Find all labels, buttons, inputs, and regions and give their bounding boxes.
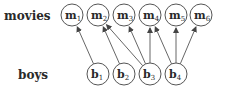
movies-node-m5: m5 xyxy=(165,4,187,26)
edges xyxy=(77,25,196,66)
boys-node-b2: b2 xyxy=(113,63,135,85)
boys-node-b1: b1 xyxy=(87,63,109,85)
edge-b4-m6 xyxy=(180,27,196,64)
edge-b1-m1 xyxy=(77,27,93,64)
boys-row-label: boys xyxy=(18,68,48,82)
movies-node-m6: m6 xyxy=(190,4,212,26)
edge-b4-m4 xyxy=(155,27,171,64)
edge-b2-m2 xyxy=(103,27,119,64)
movies-node-m4: m4 xyxy=(139,4,161,26)
movie-nodes: m1m2m3m4m5m6 xyxy=(61,4,212,26)
boy-nodes: b1b2b3b4 xyxy=(87,63,187,85)
movies-row-label: movies xyxy=(4,9,51,23)
boys-node-b4: b4 xyxy=(165,63,187,85)
boys-node-b3: b3 xyxy=(139,63,161,85)
movies-node-m2: m2 xyxy=(87,4,109,26)
movies-node-m3: m3 xyxy=(113,4,135,26)
bipartite-diagram: movies boys m1m2m3m4m5m6 b1b2b3b4 xyxy=(0,0,225,91)
movies-node-m1: m1 xyxy=(61,4,83,26)
edge-b3-m3 xyxy=(129,27,145,64)
